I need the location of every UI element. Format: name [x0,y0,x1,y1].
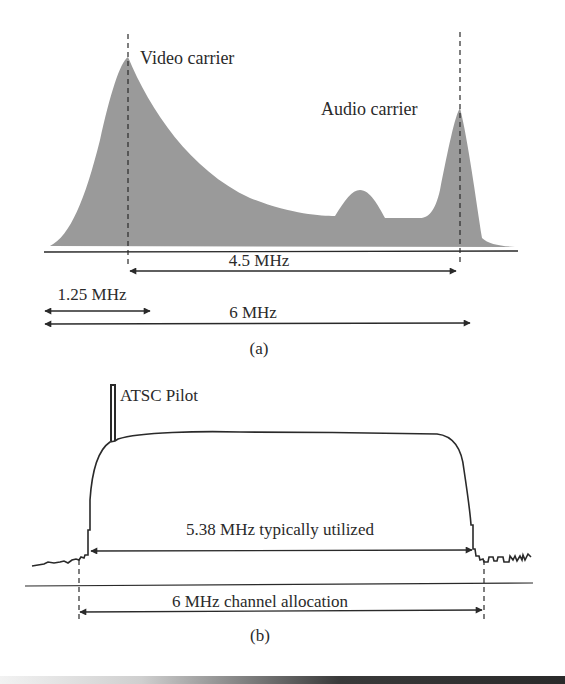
dim-utilized-label: 5.38 MHz typically utilized [186,520,374,539]
dtv-spectrum-trace [32,432,531,566]
atsc-pilot-label: ATSC Pilot [120,386,198,405]
panel-b-baseline [25,583,533,586]
dim-6-mhz-arrow [45,323,470,324]
atsc-pilot-spike [111,385,115,441]
panel-a-caption: (a) [250,339,269,358]
panel-a: Video carrier Audio carrier 4.5 MHz 1.25… [44,32,518,358]
panel-b: ATSC Pilot 5.38 MHz typically utilized 6… [25,385,533,645]
dim-1-25-mhz-label: 1.25 MHz [58,285,127,304]
page-bottom-edge [0,676,565,684]
dim-6-mhz-label: 6 MHz [229,303,277,322]
video-carrier-label: Video carrier [140,48,234,68]
dim-allocation-label: 6 MHz channel allocation [172,592,349,611]
panel-b-caption: (b) [250,626,270,645]
tv-channel-spectrum-figure: Video carrier Audio carrier 4.5 MHz 1.25… [0,0,565,684]
dim-utilized-arrow [91,550,472,551]
dim-4-5-mhz-label: 4.5 MHz [229,251,290,270]
audio-carrier-label: Audio carrier [321,99,417,119]
analog-spectrum-area [50,57,515,247]
